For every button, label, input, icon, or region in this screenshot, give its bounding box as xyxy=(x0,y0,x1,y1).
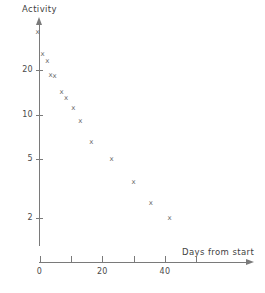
data-point-marker: x xyxy=(108,156,115,163)
data-point-marker: x xyxy=(166,215,173,222)
data-point-marker: x xyxy=(44,58,51,65)
data-point-marker: x xyxy=(34,29,41,36)
activity-decay-chart: Activity Days from start 201052 02040 xx… xyxy=(0,0,265,293)
plot-area: xxxxxxxxxxxxxx xyxy=(0,0,265,293)
data-point-marker: x xyxy=(63,95,70,102)
data-point-marker: x xyxy=(88,139,95,146)
data-point-marker: x xyxy=(147,200,154,207)
data-point-marker: x xyxy=(51,73,58,80)
data-point-marker: x xyxy=(77,118,84,125)
data-point-marker: x xyxy=(70,105,77,112)
data-point-marker: x xyxy=(130,179,137,186)
